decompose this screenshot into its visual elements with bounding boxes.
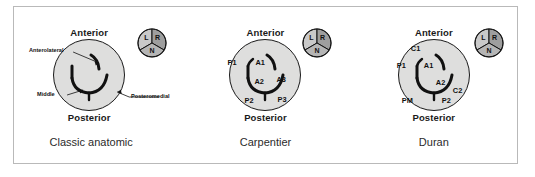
aortic-valve-inset-classic: L R N bbox=[137, 28, 167, 58]
segment-label-p1: P1 bbox=[227, 59, 236, 66]
segment-label-pm: PM bbox=[402, 97, 413, 104]
annotation-posteromedial: Posteromedial bbox=[131, 94, 170, 100]
segment-label-a2: A2 bbox=[436, 79, 445, 86]
annulus-carpentier: P1 A1 A2 A3 P2 P3 bbox=[229, 39, 301, 111]
aortic-valve-inset-duran: L R N bbox=[474, 28, 504, 58]
leaflet-line-carpentier bbox=[229, 39, 301, 111]
aortic-noncoronary-cusp-label: N bbox=[486, 47, 491, 54]
aortic-left-cusp-label: L bbox=[309, 34, 314, 41]
panel-caption-duran: Duran bbox=[350, 136, 518, 148]
aortic-right-cusp-label: R bbox=[155, 34, 160, 41]
segment-label-c1: C1 bbox=[411, 45, 420, 52]
posterior-label: Posterior bbox=[350, 112, 518, 123]
segment-label-a3: A3 bbox=[276, 76, 285, 83]
panel-caption-classic-anatomic: Classic anatomic bbox=[7, 136, 175, 148]
annotation-middle: Middle bbox=[37, 92, 55, 98]
segment-label-a1: A1 bbox=[255, 59, 264, 66]
annotation-anterolateral: Anterolateral bbox=[29, 48, 64, 54]
segment-label-p2: P2 bbox=[442, 97, 451, 104]
aortic-right-cusp-label: R bbox=[492, 34, 497, 41]
segment-label-p3: P3 bbox=[277, 96, 286, 103]
aortic-noncoronary-cusp-label: N bbox=[314, 47, 319, 54]
panel-row: Anterior L R bbox=[13, 6, 518, 164]
panel-duran: Anterior C1 P1 A1 A2 C2 PM P2 bbox=[350, 6, 518, 164]
segment-label-p2: P2 bbox=[244, 97, 253, 104]
aortic-left-cusp-label: L bbox=[481, 34, 486, 41]
aortic-left-cusp-label: L bbox=[145, 34, 150, 41]
segment-label-p1: P1 bbox=[397, 62, 406, 69]
posterior-label: Posterior bbox=[5, 112, 173, 123]
aortic-right-cusp-label: R bbox=[320, 34, 325, 41]
panel-caption-carpentier: Carpentier bbox=[181, 136, 349, 148]
mitral-valve-nomenclature-figure: Anterior L R bbox=[0, 0, 535, 177]
aortic-noncoronary-cusp-label: N bbox=[150, 47, 155, 54]
panel-carpentier: Anterior P1 A1 A2 A3 P2 P3 bbox=[181, 6, 349, 164]
posterior-label: Posterior bbox=[181, 112, 349, 123]
segment-label-a2: A2 bbox=[254, 78, 263, 85]
aortic-valve-inset-carpentier: L R N bbox=[302, 28, 332, 58]
segment-label-c2: C2 bbox=[453, 87, 462, 94]
segment-label-a1: A1 bbox=[424, 62, 433, 69]
panel-classic-anatomic: Anterior L R bbox=[13, 6, 181, 164]
annulus-duran: C1 P1 A1 A2 C2 PM P2 bbox=[398, 39, 470, 111]
